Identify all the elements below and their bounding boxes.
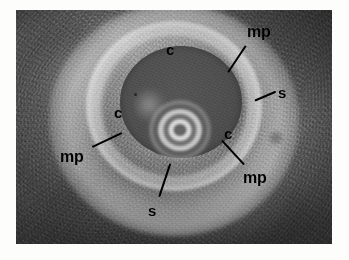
label-mp-bottom-right: mp	[243, 170, 267, 186]
label-c-left: c	[114, 105, 122, 120]
label-s-bottom: s	[148, 203, 156, 218]
label-c-top: c	[166, 42, 174, 57]
screenshot-root: c mp s c c mp mp s	[0, 0, 349, 260]
label-mp-left: mp	[60, 149, 84, 165]
label-mp-top-right: mp	[247, 24, 271, 40]
label-c-right: c	[224, 126, 232, 141]
label-s-right: s	[278, 85, 286, 100]
